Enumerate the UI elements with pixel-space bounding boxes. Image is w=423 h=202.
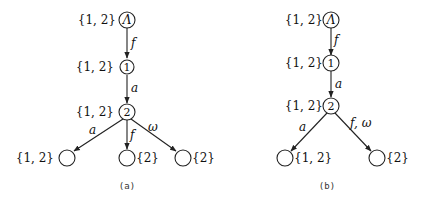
- edge-label-a-n2-rightleaf: ω: [148, 120, 158, 134]
- node-a-1-label: 1: [124, 61, 131, 74]
- edge-label-a-root-n1: f: [130, 36, 138, 50]
- node-b-2-label: 2: [328, 100, 335, 113]
- node-b-leaf-left: [277, 150, 293, 166]
- edge-label-a-n2-midleaf: f: [129, 128, 137, 142]
- node-b-leaf-left-set: {1, 2}: [294, 151, 332, 165]
- edge-label-a-n2-leftleaf: a: [89, 123, 96, 137]
- node-a-leaf-right: [175, 150, 191, 166]
- edge-label-a-n1-n2: a: [131, 81, 138, 95]
- node-a-2-label: 2: [124, 106, 131, 119]
- edge-label-b-root-n1: f: [333, 33, 341, 47]
- diagram-canvas: f a a f ω Λ {1, 2} 1 {1, 2} 2 {1, 2} {1,…: [0, 0, 423, 202]
- node-b-1-label: 1: [328, 57, 335, 70]
- node-a-root-label: Λ: [122, 13, 132, 27]
- figure-b: f a a f, ω Λ {1, 2} 1 {1, 2} 2 {1, 2} {1…: [277, 12, 409, 191]
- node-a-leaf-left: [59, 150, 75, 166]
- node-a-1-set: {1, 2}: [76, 60, 114, 74]
- caption-b: (b): [319, 181, 335, 191]
- edge-label-b-n2-leftleaf: a: [299, 120, 306, 134]
- edge-label-b-n2-rightleaf: f, ω: [349, 116, 372, 130]
- node-a-root-set: {1, 2}: [78, 13, 116, 27]
- node-b-root-set: {1, 2}: [285, 13, 323, 27]
- node-a-leaf-mid: [119, 150, 135, 166]
- node-a-2-set: {1, 2}: [76, 105, 114, 119]
- caption-a: (a): [119, 181, 135, 191]
- node-a-leaf-left-set: {1, 2}: [16, 151, 54, 165]
- node-b-2-set: {1, 2}: [285, 99, 323, 113]
- figure-a: f a a f ω Λ {1, 2} 1 {1, 2} 2 {1, 2} {1,…: [16, 12, 215, 191]
- node-a-leaf-right-set: {2}: [192, 151, 215, 165]
- node-b-leaf-right: [369, 150, 385, 166]
- node-b-1-set: {1, 2}: [285, 56, 323, 70]
- edge-a-n2-leftleaf: [74, 119, 123, 151]
- edge-label-b-n1-n2: a: [335, 77, 342, 91]
- node-b-root-label: Λ: [326, 13, 336, 27]
- node-a-leaf-mid-set: {2}: [136, 151, 159, 165]
- node-b-leaf-right-set: {2}: [386, 151, 409, 165]
- edge-b-n2-leftleaf: [291, 113, 327, 151]
